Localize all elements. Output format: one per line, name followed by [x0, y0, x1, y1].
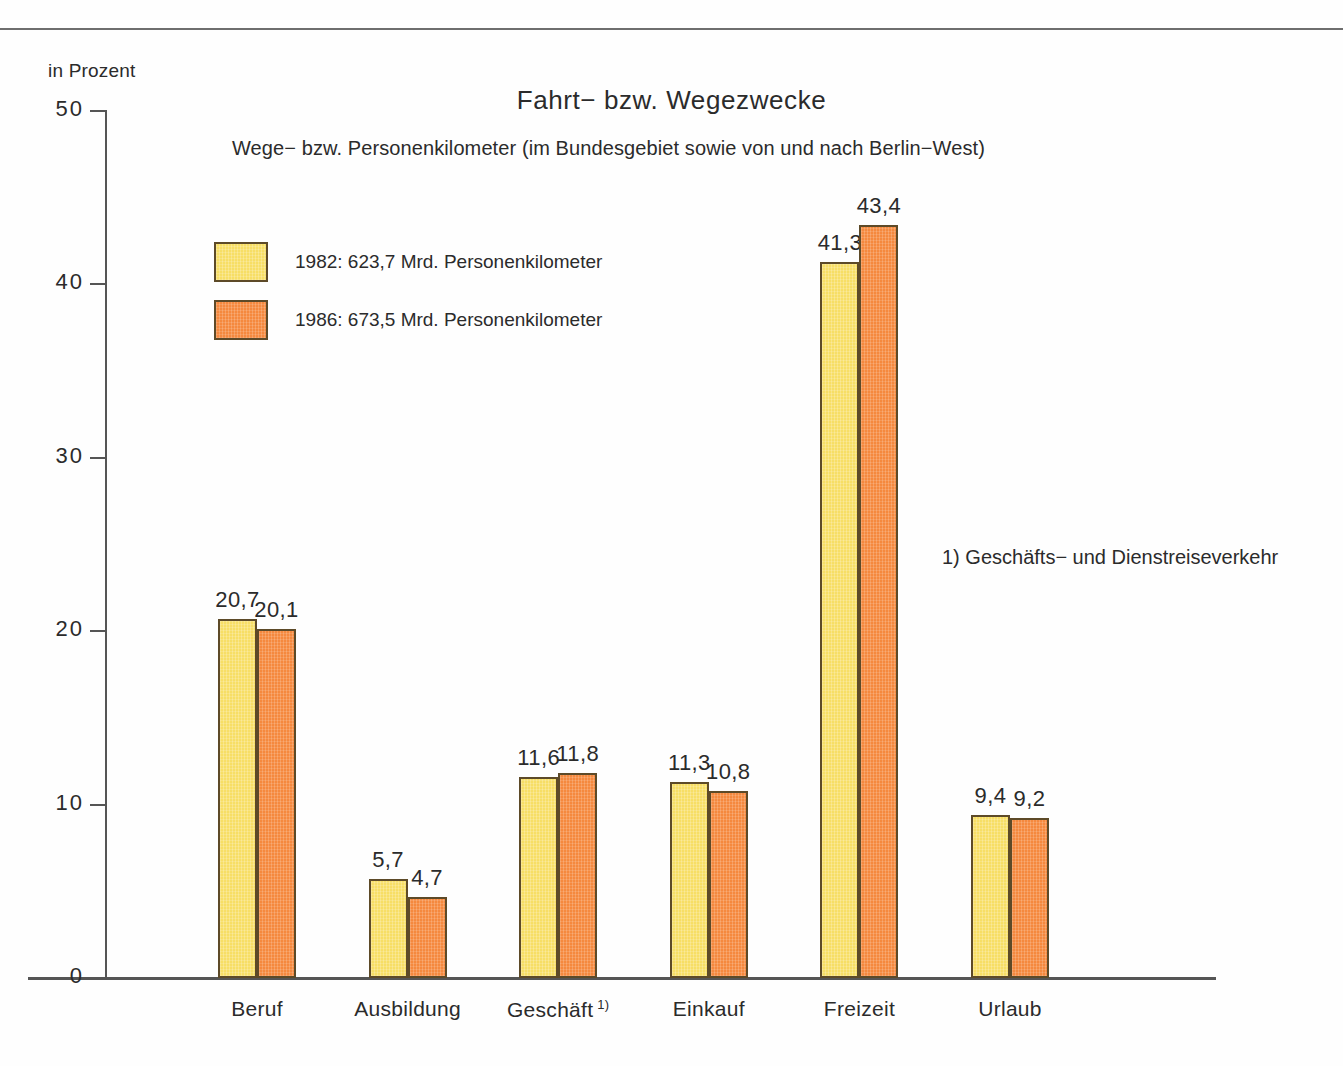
bar	[709, 791, 748, 978]
bar	[257, 629, 296, 978]
bar	[218, 619, 257, 978]
bar-value-label: 5,7	[372, 847, 404, 873]
bar	[369, 879, 408, 978]
y-axis-tick	[90, 630, 107, 632]
y-axis-line	[105, 110, 107, 980]
x-axis-label-einkauf: Einkauf	[673, 997, 745, 1021]
bar-value-label: 41,3	[818, 230, 862, 256]
y-axis-tick	[90, 283, 107, 285]
bar	[408, 897, 447, 978]
plot-area: 01020304050 20,720,15,74,711,611,811,310…	[0, 0, 1343, 1066]
bar-value-label: 9,4	[975, 783, 1007, 809]
bar-value-label: 9,2	[1014, 786, 1046, 812]
bar	[519, 777, 558, 978]
bar	[670, 782, 709, 978]
y-axis-tick	[90, 977, 107, 979]
x-axis-label-ausbildung: Ausbildung	[354, 997, 461, 1021]
x-axis-label-freizeit: Freizeit	[824, 997, 895, 1021]
bar-value-label: 10,8	[706, 759, 750, 785]
y-axis-tick-label: 10	[14, 790, 84, 816]
x-axis-label-geschäft: Geschäft 1)	[507, 997, 610, 1022]
y-axis-tick-label: 50	[14, 96, 84, 122]
y-axis-tick-label: 40	[14, 269, 84, 295]
y-axis-tick-label: 30	[14, 443, 84, 469]
bar	[558, 773, 597, 978]
bar-value-label: 11,6	[517, 745, 560, 771]
bar-value-label: 20,1	[254, 597, 298, 623]
bar	[1010, 818, 1049, 978]
x-axis-label-urlaub: Urlaub	[978, 997, 1042, 1021]
y-axis-tick-label: 20	[14, 616, 84, 642]
bar-value-label: 4,7	[411, 865, 443, 891]
bar	[971, 815, 1010, 978]
chart-page: in Prozent Fahrt− bzw. Wegezwecke Wege− …	[0, 0, 1343, 1066]
bar	[859, 225, 898, 978]
footnote-marker: 1)	[593, 997, 609, 1012]
y-axis-tick-label: 0	[14, 963, 84, 989]
y-axis-tick	[90, 457, 107, 459]
bar-value-label: 11,3	[668, 750, 711, 776]
bar-value-label: 11,8	[556, 741, 599, 767]
bar-value-label: 20,7	[215, 587, 259, 613]
bar	[820, 262, 859, 978]
x-axis-label-beruf: Beruf	[231, 997, 283, 1021]
bar-value-label: 43,4	[857, 193, 901, 219]
y-axis-tick	[90, 804, 107, 806]
y-axis-tick	[90, 110, 107, 112]
